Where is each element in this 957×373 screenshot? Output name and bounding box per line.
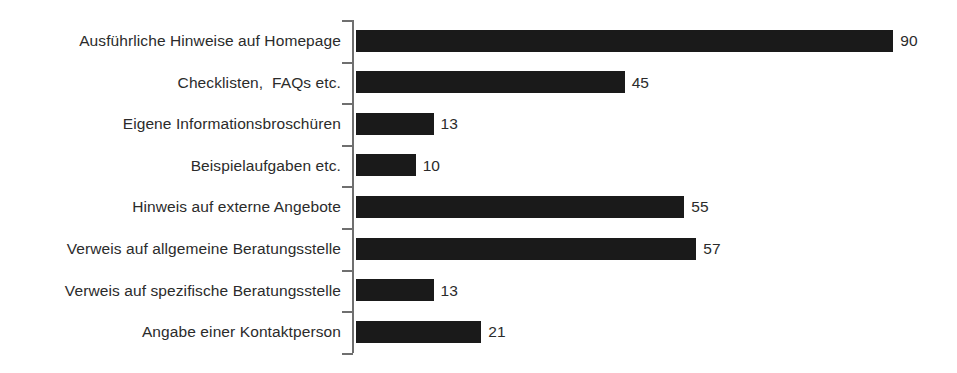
bar <box>356 321 481 343</box>
bar-row: Verweis auf spezifische Beratungsstelle1… <box>0 270 957 312</box>
bar-row: Verweis auf allgemeine Beratungsstelle57 <box>0 228 957 270</box>
bar-value-label: 57 <box>703 228 720 270</box>
axis-tick <box>342 311 353 313</box>
bar <box>356 71 625 93</box>
axis-tick <box>342 186 353 188</box>
category-label: Beispielaufgaben etc. <box>191 145 341 187</box>
bar <box>356 279 434 301</box>
bar-row: Angabe einer Kontaktperson21 <box>0 311 957 353</box>
bar-value-label: 90 <box>900 20 917 62</box>
bar <box>356 30 893 52</box>
bar-row: Beispielaufgaben etc.10 <box>0 145 957 187</box>
axis-tick <box>342 228 353 230</box>
axis-tick <box>342 103 353 105</box>
bar-row: Checklisten, FAQs etc.45 <box>0 62 957 104</box>
bar-row: Hinweis auf externe Angebote55 <box>0 186 957 228</box>
bar-value-label: 10 <box>423 145 440 187</box>
axis-tick <box>342 62 353 64</box>
plot-area: Ausführliche Hinweise auf Homepage90Chec… <box>0 0 957 373</box>
bar-value-label: 13 <box>441 270 458 312</box>
category-label: Verweis auf spezifische Beratungsstelle <box>65 270 341 312</box>
category-label: Verweis auf allgemeine Beratungsstelle <box>67 228 341 270</box>
category-label: Checklisten, FAQs etc. <box>178 62 341 104</box>
axis-tick <box>342 270 353 272</box>
bar-value-label: 13 <box>441 103 458 145</box>
category-label: Angabe einer Kontaktperson <box>142 311 341 353</box>
axis-tick <box>342 20 353 22</box>
category-label: Hinweis auf externe Angebote <box>132 186 341 228</box>
bar-row: Eigene Informationsbroschüren13 <box>0 103 957 145</box>
bar <box>356 238 696 260</box>
bar-rows: Ausführliche Hinweise auf Homepage90Chec… <box>0 20 957 353</box>
bar-value-label: 55 <box>691 186 708 228</box>
category-label: Eigene Informationsbroschüren <box>123 103 341 145</box>
axis-tick <box>342 353 353 355</box>
bar-value-label: 45 <box>632 62 649 104</box>
axis-tick <box>342 145 353 147</box>
bar-chart: Ausführliche Hinweise auf Homepage90Chec… <box>0 0 957 373</box>
bar <box>356 113 434 135</box>
category-label: Ausführliche Hinweise auf Homepage <box>79 20 341 62</box>
bar-row: Ausführliche Hinweise auf Homepage90 <box>0 20 957 62</box>
bar <box>356 154 416 176</box>
bar <box>356 196 684 218</box>
axis-end-row <box>0 353 957 373</box>
bar-value-label: 21 <box>488 311 505 353</box>
